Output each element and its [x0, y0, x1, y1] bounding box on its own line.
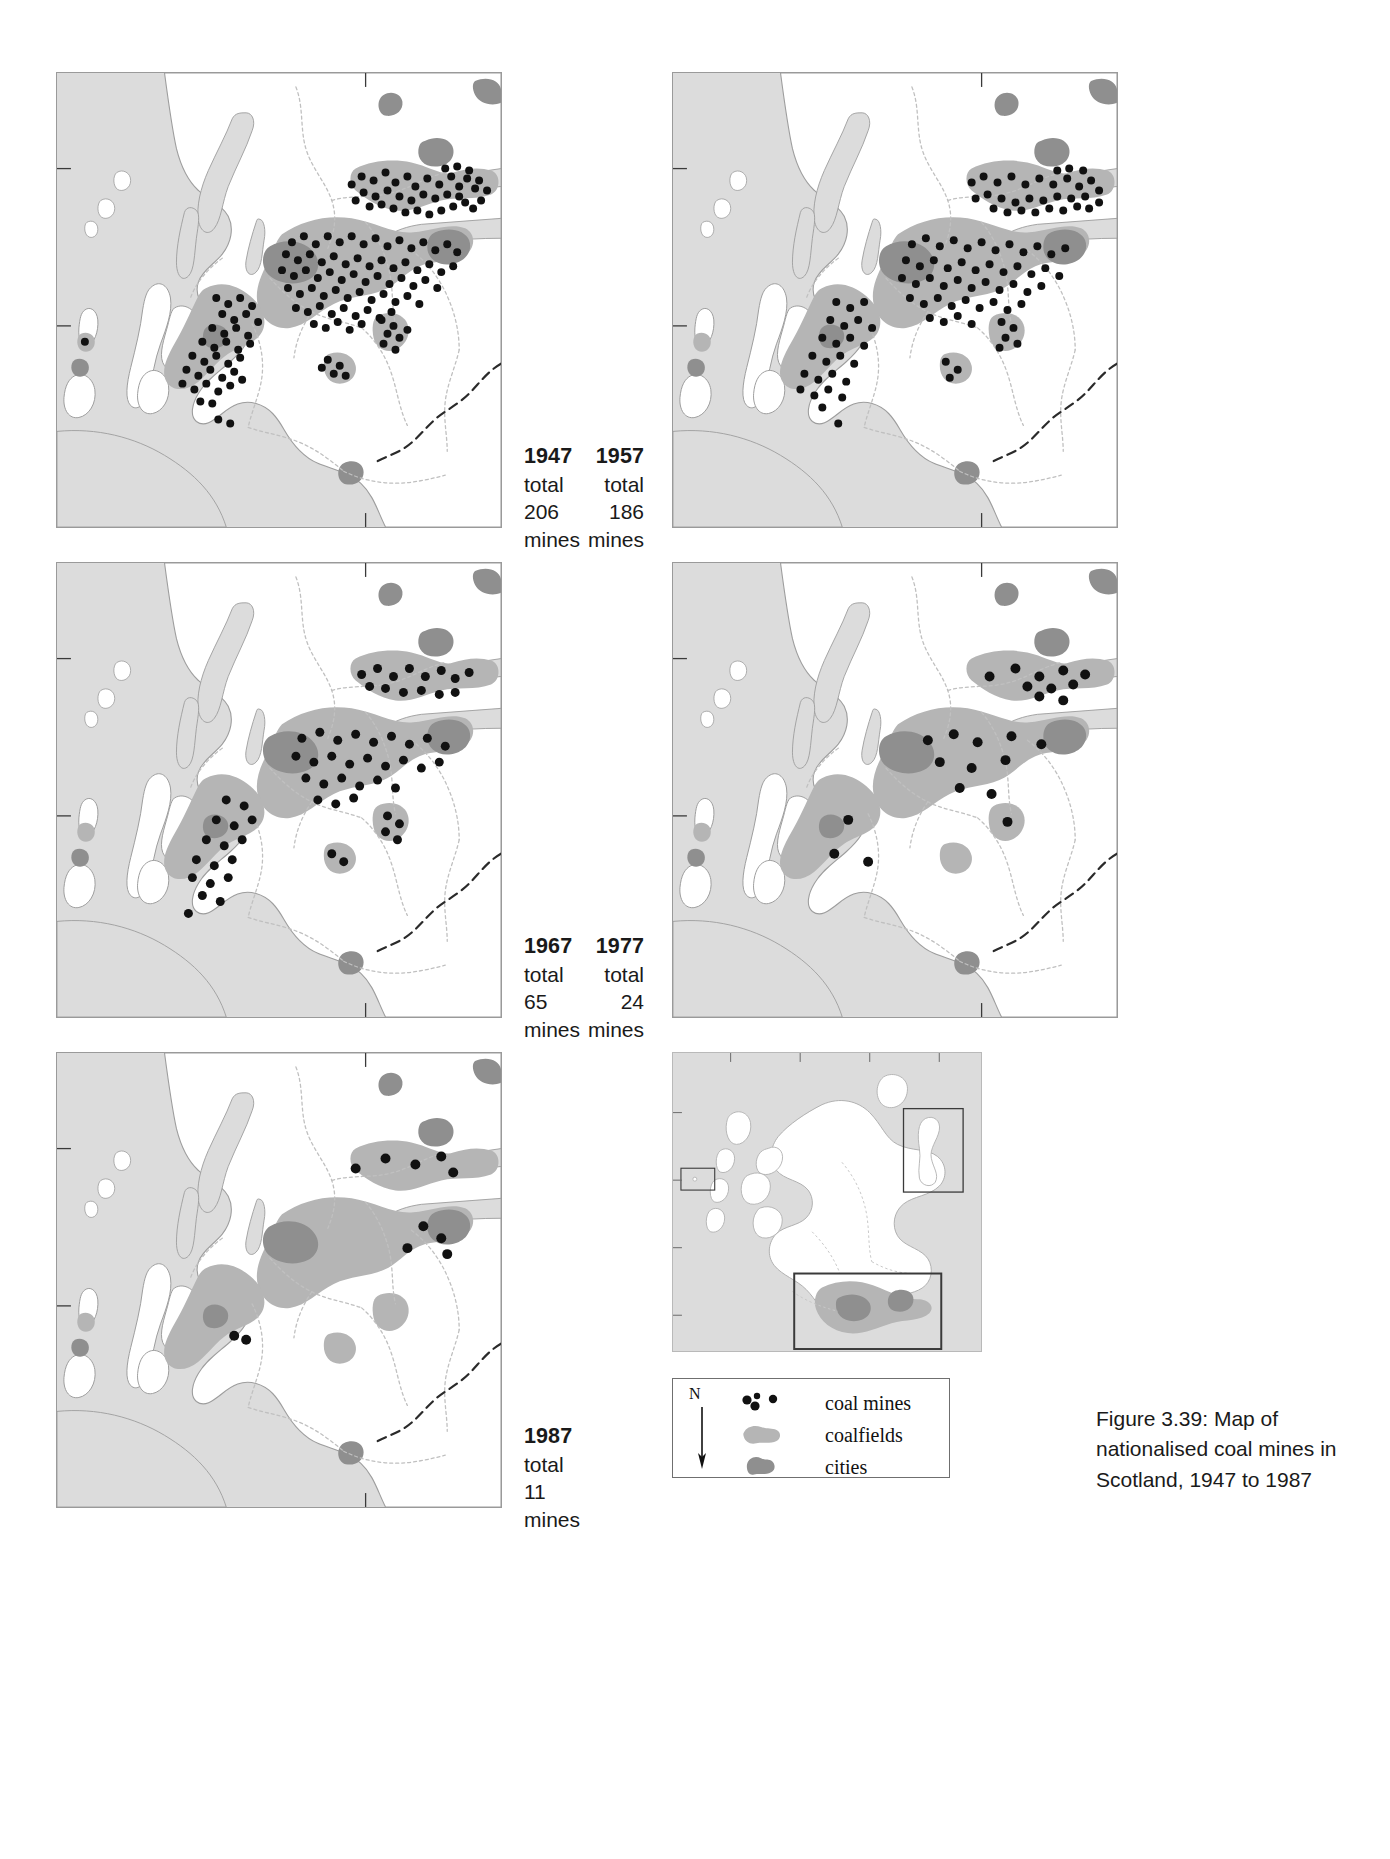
panel-total-word-1957: total	[534, 471, 644, 498]
legend-label-cities: cities	[801, 1456, 867, 1479]
map-panel-1957[interactable]	[672, 72, 1118, 528]
map-1977	[673, 563, 1117, 1017]
legend: N coal mines coalfields	[672, 1378, 950, 1478]
panel-unit-1957: mines	[534, 526, 644, 553]
panel-year-1957: 1957	[534, 443, 644, 471]
map-panel-1947[interactable]	[56, 72, 502, 528]
cities-icon	[735, 1452, 801, 1482]
panel-total-word-1977: total	[534, 961, 644, 988]
map-1967	[57, 563, 501, 1017]
map-1987	[57, 1053, 501, 1507]
locator-inset-map[interactable]	[672, 1052, 982, 1352]
map-panel-1987[interactable]	[56, 1052, 502, 1508]
coal-mines-icon	[735, 1388, 801, 1418]
legend-items: coal mines coalfields cities	[735, 1387, 911, 1483]
map-1947	[57, 73, 501, 527]
map-panel-1967[interactable]	[56, 562, 502, 1018]
caption-line-2: nationalised coal mines in	[1096, 1434, 1376, 1464]
inset-scotland	[673, 1053, 981, 1351]
panel-unit-1987: mines	[524, 1506, 634, 1533]
legend-item-coalfields: coalfields	[735, 1419, 911, 1451]
panel-label-1977: 1977 total 24 mines	[534, 933, 644, 1043]
legend-item-cities: cities	[735, 1451, 911, 1483]
figure-page: 1947 total 206 mines 1957 total 186 mine…	[0, 0, 1390, 1859]
legend-label-coalfields: coalfields	[801, 1424, 903, 1447]
panel-count-1977: 24	[534, 988, 644, 1015]
map-panel-1977[interactable]	[672, 562, 1118, 1018]
coalfields-icon	[735, 1420, 801, 1450]
legend-label-coal-mines: coal mines	[801, 1392, 911, 1415]
panel-year-1977: 1977	[534, 933, 644, 961]
map-1957	[673, 73, 1117, 527]
legend-item-coal-mines: coal mines	[735, 1387, 911, 1419]
caption-line-1: Figure 3.39: Map of	[1096, 1404, 1376, 1434]
panel-count-1987: 11	[524, 1478, 634, 1505]
figure-caption: Figure 3.39: Map of nationalised coal mi…	[1096, 1404, 1376, 1495]
north-arrow-icon	[695, 1405, 709, 1469]
panel-total-word-1987: total	[524, 1451, 634, 1478]
panel-year-1987: 1987	[524, 1423, 634, 1451]
caption-line-3: Scotland, 1947 to 1987	[1096, 1465, 1376, 1495]
north-label: N	[689, 1385, 701, 1403]
panel-unit-1977: mines	[534, 1016, 644, 1043]
panel-label-1957: 1957 total 186 mines	[534, 443, 644, 553]
panel-count-1957: 186	[534, 498, 644, 525]
panel-label-1987: 1987 total 11 mines	[524, 1423, 634, 1533]
